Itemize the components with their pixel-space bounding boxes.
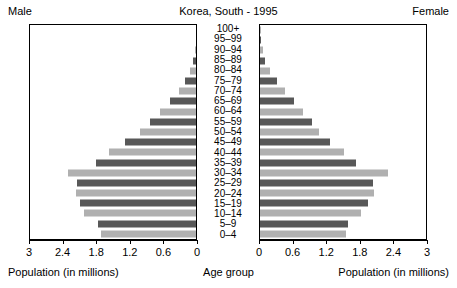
male-bar-row bbox=[30, 137, 196, 147]
female-x-axis-line bbox=[259, 240, 427, 241]
male-bar bbox=[125, 139, 196, 146]
male-bar-row bbox=[30, 157, 196, 167]
male-bar-row bbox=[30, 147, 196, 157]
male-bar-row bbox=[30, 168, 196, 178]
axis-tick bbox=[197, 240, 198, 244]
axis-tick bbox=[29, 240, 30, 244]
female-bar-row bbox=[260, 229, 426, 239]
axis-tick-label: 0 bbox=[177, 246, 217, 258]
female-bar-row bbox=[260, 157, 426, 167]
male-bar-row bbox=[30, 127, 196, 137]
female-bar bbox=[260, 179, 373, 186]
female-bar-row bbox=[260, 219, 426, 229]
male-bar-row bbox=[30, 66, 196, 76]
female-bar-row bbox=[260, 117, 426, 127]
male-bar-row bbox=[30, 96, 196, 106]
axis-tick bbox=[130, 240, 131, 244]
female-bar-row bbox=[260, 178, 426, 188]
female-bar bbox=[260, 37, 261, 44]
male-bar-row bbox=[30, 107, 196, 117]
female-bar-row bbox=[260, 168, 426, 178]
axis-tick bbox=[63, 240, 64, 244]
male-bar bbox=[170, 98, 196, 105]
axis-tick bbox=[393, 240, 394, 244]
axis-tick bbox=[293, 240, 294, 244]
male-bar bbox=[76, 190, 196, 197]
female-bar bbox=[260, 98, 294, 105]
female-bar bbox=[260, 159, 356, 166]
male-bar bbox=[98, 220, 196, 227]
male-bar-row bbox=[30, 25, 196, 35]
male-bar bbox=[84, 210, 196, 217]
age-group-label: 45–49 bbox=[197, 137, 259, 147]
female-bar-row bbox=[260, 147, 426, 157]
female-bar bbox=[260, 47, 263, 54]
female-bar-row bbox=[260, 198, 426, 208]
female-bars-panel bbox=[259, 24, 427, 240]
male-bar bbox=[109, 149, 196, 156]
male-bar-row bbox=[30, 178, 196, 188]
axis-tick bbox=[96, 240, 97, 244]
male-bar-row bbox=[30, 35, 196, 45]
chart-title: Korea, South - 1995 bbox=[0, 4, 457, 18]
female-bar bbox=[260, 57, 265, 64]
female-bar-rows bbox=[260, 25, 426, 239]
male-bar bbox=[195, 47, 196, 54]
female-bar-row bbox=[260, 66, 426, 76]
male-bar bbox=[179, 88, 196, 95]
male-bar-row bbox=[30, 56, 196, 66]
male-bar bbox=[101, 230, 196, 237]
male-bar bbox=[160, 108, 196, 115]
axis-tick bbox=[360, 240, 361, 244]
male-bar-row bbox=[30, 188, 196, 198]
female-bar bbox=[260, 220, 348, 227]
female-bar bbox=[260, 210, 361, 217]
male-bar bbox=[150, 118, 196, 125]
female-bar-row bbox=[260, 45, 426, 55]
female-bar bbox=[260, 78, 277, 85]
male-bar bbox=[80, 200, 196, 207]
male-bar bbox=[185, 78, 196, 85]
age-group-label: 80–84 bbox=[197, 65, 259, 75]
female-bar-row bbox=[260, 56, 426, 66]
age-group-label: 25–29 bbox=[197, 178, 259, 188]
female-bar-row bbox=[260, 35, 426, 45]
female-bar-row bbox=[260, 86, 426, 96]
female-axis-caption: Population (in millions) bbox=[338, 266, 449, 279]
female-bar bbox=[260, 149, 344, 156]
female-bar-row bbox=[260, 107, 426, 117]
female-bar bbox=[260, 139, 330, 146]
male-bar bbox=[140, 128, 196, 135]
male-bar-row bbox=[30, 117, 196, 127]
male-bar-row bbox=[30, 229, 196, 239]
female-bar bbox=[260, 118, 312, 125]
axis-tick bbox=[326, 240, 327, 244]
male-bar-row bbox=[30, 219, 196, 229]
age-group-label: 0–4 bbox=[197, 230, 259, 240]
female-bar-row bbox=[260, 127, 426, 137]
male-bar bbox=[190, 67, 196, 74]
female-bar-row bbox=[260, 96, 426, 106]
male-bar-rows bbox=[30, 25, 196, 239]
female-bar bbox=[260, 190, 374, 197]
male-bar-row bbox=[30, 208, 196, 218]
axis-tick bbox=[427, 240, 428, 244]
female-bar-row bbox=[260, 208, 426, 218]
population-pyramid-figure: Male Korea, South - 1995 Female 100+95–9… bbox=[0, 0, 457, 288]
male-bar-row bbox=[30, 45, 196, 55]
male-bar-row bbox=[30, 198, 196, 208]
axis-tick bbox=[163, 240, 164, 244]
male-bar bbox=[193, 57, 196, 64]
female-bar bbox=[260, 88, 285, 95]
female-bar bbox=[260, 200, 368, 207]
male-bar-row bbox=[30, 76, 196, 86]
female-bar bbox=[260, 108, 303, 115]
male-bar bbox=[68, 169, 196, 176]
female-bar bbox=[260, 230, 346, 237]
male-bar-row bbox=[30, 86, 196, 96]
age-group-axis: 100+95–9990–9485–8980–8475–7970–7465–696… bbox=[197, 24, 259, 240]
female-bar bbox=[260, 169, 388, 176]
male-bars-panel bbox=[29, 24, 197, 240]
female-bar-row bbox=[260, 188, 426, 198]
male-x-axis-line bbox=[29, 240, 197, 241]
